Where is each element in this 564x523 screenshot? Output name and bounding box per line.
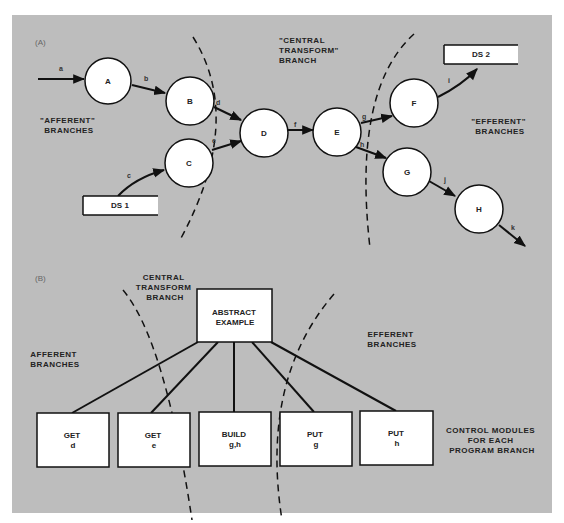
region-efferent-label: "EFFERENT" BRANCHES [471,117,529,136]
edge-label-f: f [294,121,297,128]
edge-label-i: i [448,77,450,84]
process-node-h[interactable]: H [455,185,503,233]
efferent-boundary [366,34,414,248]
node-label: E [334,128,340,137]
module-build-gh[interactable]: BUILD g,h [199,412,271,466]
edge-e [212,141,241,150]
connector-get-e [151,342,218,413]
edge-i [438,69,477,97]
node-label: B [187,97,193,106]
node-label: A [105,77,111,86]
edge-d [214,107,241,120]
root-module-label: ABSTRACT EXAMPLE [212,308,258,327]
region-afferent-label: "AFFERENT" BRANCHES [40,116,98,135]
data-store-label: DS 1 [111,201,129,210]
node-label: G [404,168,410,177]
data-store-ds1[interactable]: DS 1 [83,196,158,215]
edge-label-j: j [443,176,446,184]
process-node-a[interactable]: A [85,58,131,104]
connector-get-d [72,342,198,413]
module-put-g[interactable]: PUT g [280,412,352,466]
edge-label-e: e [212,137,216,144]
node-label: F [412,99,417,108]
edge-label-b: b [144,75,148,82]
region-central-label: "CENTRAL TRANSFORM" BRANCH [279,36,342,65]
data-store-label: DS 2 [472,50,490,59]
edge-label-d: d [216,99,220,106]
edge-label-c: c [127,172,131,179]
control-modules: GET d GET e BUILD g,h [37,411,433,467]
edge-label-a: a [59,65,63,72]
process-node-g[interactable]: G [383,148,431,196]
edge-label-g: g [362,113,366,121]
region-central-label-b: CENTRAL TRANSFORM BRANCH [136,273,194,302]
part-a: (A) "AFFERENT" BRANCHES "CENTRAL TRANSFO… [35,34,529,248]
root-module-abstract-example[interactable]: ABSTRACT EXAMPLE [197,289,272,342]
edge-h [356,147,386,158]
diagram-canvas: (A) "AFFERENT" BRANCHES "CENTRAL TRANSFO… [0,0,564,523]
process-node-f[interactable]: F [390,79,438,127]
part-b: (B) AFFERENT BRANCHES CENTRAL TRANSFORM … [30,273,538,520]
region-afferent-label-b: AFFERENT BRANCHES [30,350,80,369]
efferent-boundary-b [277,294,334,520]
process-node-e[interactable]: E [313,108,361,156]
edge-c [118,170,164,196]
node-label: D [261,129,267,138]
process-node-c[interactable]: C [165,139,213,187]
hierarchy-connectors [72,342,396,413]
module-get-e[interactable]: GET e [118,413,190,467]
control-modules-caption: CONTROL MODULES FOR EACH PROGRAM BRANCH [446,426,538,455]
node-label: H [476,205,482,214]
data-store-ds2[interactable]: DS 2 [444,45,518,64]
edge-b [132,85,165,93]
section-label-a: (A) [35,38,46,47]
edge-j [429,181,455,196]
edge-label-h: h [360,141,364,148]
process-node-b[interactable]: B [166,77,214,125]
afferent-boundary [180,37,216,240]
section-label-b: (B) [35,274,46,283]
region-efferent-label-b: EFFERENT BRANCHES [367,330,417,349]
node-label: C [186,159,192,168]
connector-put-h [271,342,396,411]
process-node-d[interactable]: D [240,109,288,157]
module-put-h[interactable]: PUT h [360,411,433,465]
module-get-d[interactable]: GET d [37,413,109,467]
edge-label-k: k [511,224,515,231]
